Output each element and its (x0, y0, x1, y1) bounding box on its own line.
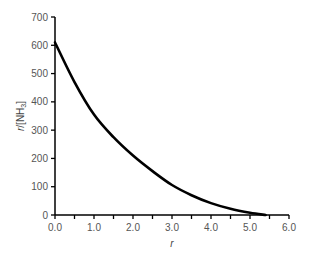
y-axis-label-text: /[NH (15, 108, 26, 128)
y-tick-label: 400 (31, 96, 48, 107)
line-chart: 0100200300400500600700 0.01.02.03.04.05.… (0, 0, 309, 259)
data-series-line (55, 42, 266, 215)
x-tick-label: 0.0 (48, 222, 62, 233)
x-tick-label: 4.0 (204, 222, 218, 233)
x-tick-label: 6.0 (282, 222, 296, 233)
y-axis-ticks: 0100200300400500600700 (31, 12, 55, 221)
x-tick-label: 1.0 (87, 222, 101, 233)
y-tick-label: 600 (31, 40, 48, 51)
y-tick-label: 500 (31, 68, 48, 79)
y-tick-label: 100 (31, 181, 48, 192)
y-tick-label: 300 (31, 125, 48, 136)
y-axis-label: r/[NH3] (15, 101, 27, 131)
x-tick-label: 3.0 (165, 222, 179, 233)
x-axis-label: r (170, 238, 174, 249)
x-axis-ticks: 0.01.02.03.04.05.06.0 (48, 215, 296, 233)
x-tick-label: 2.0 (126, 222, 140, 233)
y-axis-label-close: ] (15, 101, 26, 104)
y-tick-label: 0 (42, 210, 48, 221)
y-tick-label: 700 (31, 12, 48, 23)
x-tick-label: 5.0 (243, 222, 257, 233)
y-tick-label: 200 (31, 153, 48, 164)
